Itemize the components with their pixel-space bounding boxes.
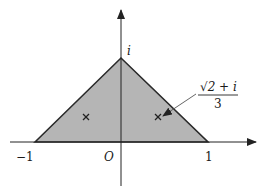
complex-plane-diagram: i −1 1 O √2 + i 3: [0, 0, 264, 194]
annotation-denominator: 3: [214, 97, 222, 111]
label-one: 1: [205, 150, 213, 164]
label-i: i: [127, 44, 131, 58]
label-origin: O: [104, 150, 114, 164]
annotation-numerator: √2 + i: [200, 80, 237, 94]
label-minus-one: −1: [16, 150, 34, 164]
